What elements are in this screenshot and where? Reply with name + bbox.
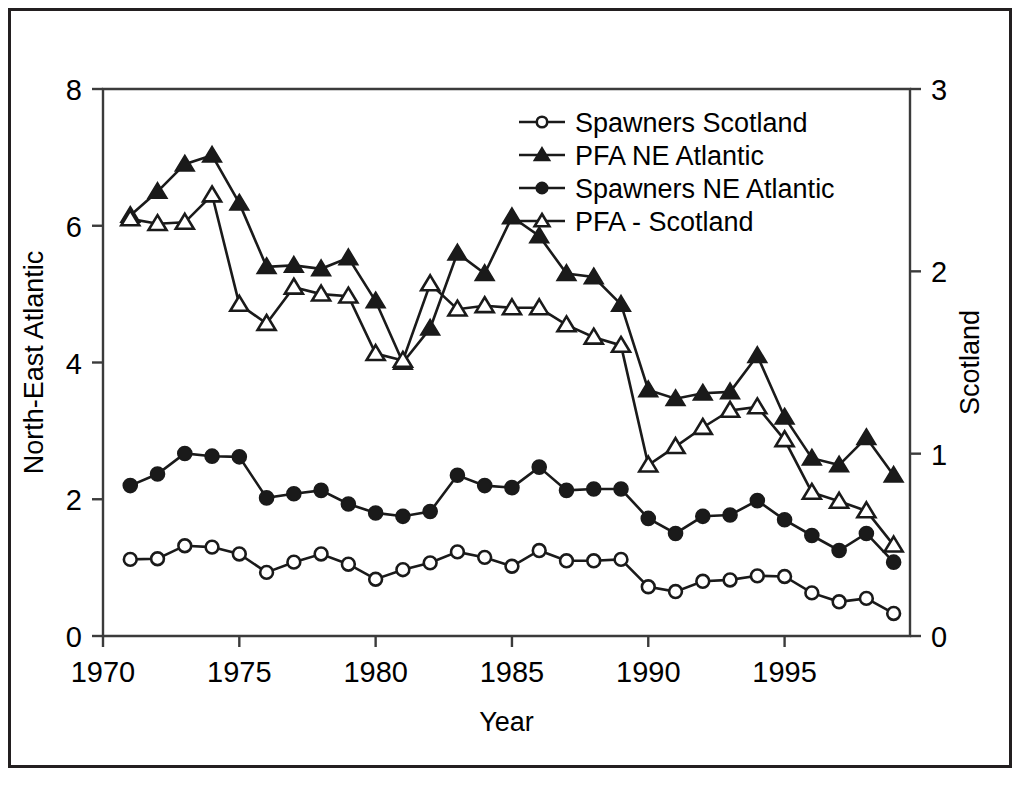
marker-open-circle — [206, 541, 219, 554]
marker-open-circle — [560, 554, 573, 567]
marker-open-triangle — [230, 296, 248, 311]
marker-filled-circle — [778, 513, 792, 527]
marker-open-triangle — [748, 398, 766, 413]
legend-item: PFA - Scotland — [519, 207, 754, 237]
marker-open-triangle — [535, 214, 550, 226]
marker-open-circle — [696, 575, 709, 588]
legend-item: Spawners Scotland — [519, 108, 808, 138]
legend-label: Spawners NE Atlantic — [575, 174, 835, 204]
marker-filled-circle — [450, 468, 464, 482]
marker-open-triangle — [476, 297, 494, 312]
marker-filled-circle — [314, 483, 328, 497]
marker-open-circle — [478, 551, 491, 564]
marker-filled-circle — [178, 446, 192, 460]
marker-open-circle — [233, 548, 246, 561]
y-tick-label-right: 2 — [931, 256, 947, 288]
marker-open-circle — [887, 607, 900, 620]
marker-filled-triangle — [802, 449, 821, 465]
marker-filled-circle — [750, 494, 764, 508]
marker-filled-circle — [536, 182, 547, 193]
legend-item: Spawners NE Atlantic — [519, 174, 835, 204]
marker-filled-circle — [232, 450, 246, 464]
caption-strip — [8, 772, 1014, 786]
marker-filled-triangle — [502, 208, 521, 224]
marker-filled-triangle — [748, 347, 767, 363]
marker-open-triangle — [803, 484, 821, 499]
line-chart: 024680123197019751980198519901995 Spawne… — [11, 11, 1015, 771]
x-tick-label: 1995 — [752, 656, 817, 688]
x-tick-label: 1970 — [71, 656, 136, 688]
y-tick-label-right: 3 — [931, 74, 947, 106]
marker-filled-circle — [614, 482, 628, 496]
x-tick-label: 1980 — [343, 656, 408, 688]
marker-open-circle — [369, 573, 382, 586]
marker-filled-circle — [669, 526, 683, 540]
marker-open-triangle — [203, 186, 221, 201]
marker-filled-triangle — [530, 227, 549, 243]
marker-open-triangle — [585, 329, 603, 344]
marker-filled-triangle — [284, 256, 303, 272]
marker-filled-circle — [505, 481, 519, 495]
y-tick-label-left: 4 — [66, 348, 82, 380]
marker-open-circle — [396, 563, 409, 576]
y-tick-label-right: 1 — [931, 439, 947, 471]
marker-open-circle — [151, 552, 164, 565]
marker-filled-triangle — [557, 265, 576, 281]
marker-filled-triangle — [421, 319, 440, 335]
marker-open-triangle — [667, 438, 685, 453]
marker-filled-circle — [641, 511, 655, 525]
marker-open-circle — [724, 574, 737, 587]
marker-open-circle — [860, 592, 873, 605]
marker-open-circle — [833, 595, 846, 608]
series-polyline — [130, 453, 893, 562]
marker-open-circle — [124, 553, 137, 566]
plot-frame — [103, 89, 910, 636]
y-axis-label-left: North-East Atlantic — [19, 251, 49, 475]
marker-filled-circle — [396, 509, 410, 523]
marker-open-circle — [506, 560, 519, 573]
marker-open-triangle — [639, 457, 657, 472]
marker-filled-circle — [123, 479, 137, 493]
marker-filled-circle — [287, 487, 301, 501]
marker-filled-circle — [369, 506, 383, 520]
marker-open-circle — [342, 558, 355, 571]
marker-open-circle — [178, 539, 191, 552]
marker-filled-circle — [205, 449, 219, 463]
marker-filled-circle — [423, 505, 437, 519]
marker-filled-triangle — [775, 408, 794, 424]
marker-open-circle — [669, 585, 682, 598]
marker-filled-circle — [887, 555, 901, 569]
marker-open-circle — [751, 569, 764, 582]
chart-legend: Spawners ScotlandPFA NE AtlanticSpawners… — [519, 108, 835, 237]
marker-open-circle — [805, 587, 818, 600]
series-pfa-scotland — [121, 186, 902, 551]
marker-filled-triangle — [366, 292, 385, 308]
marker-open-circle — [315, 548, 328, 561]
marker-filled-circle — [478, 479, 492, 493]
marker-filled-circle — [696, 509, 710, 523]
marker-filled-circle — [341, 497, 355, 511]
marker-open-triangle — [694, 419, 712, 434]
legend-label: PFA - Scotland — [575, 207, 754, 237]
marker-open-triangle — [285, 279, 303, 294]
marker-open-circle — [260, 566, 273, 579]
marker-filled-circle — [532, 460, 546, 474]
x-tick-label: 1990 — [616, 656, 681, 688]
series-spawners-scotland — [124, 539, 900, 619]
y-tick-label-left: 2 — [66, 484, 82, 516]
y-tick-label-left: 6 — [66, 211, 82, 243]
marker-filled-triangle — [857, 429, 876, 445]
marker-filled-triangle — [339, 249, 358, 265]
x-axis-label: Year — [479, 707, 534, 737]
marker-filled-circle — [151, 467, 165, 481]
y-tick-label-right: 0 — [931, 621, 947, 653]
chart-series-group — [121, 146, 903, 620]
marker-open-circle — [537, 117, 547, 127]
marker-filled-circle — [723, 508, 737, 522]
marker-filled-triangle — [230, 194, 249, 210]
marker-open-circle — [287, 556, 300, 569]
marker-open-circle — [424, 556, 437, 569]
marker-filled-circle — [587, 482, 601, 496]
legend-item: PFA NE Atlantic — [519, 141, 764, 171]
x-tick-label: 1975 — [207, 656, 272, 688]
